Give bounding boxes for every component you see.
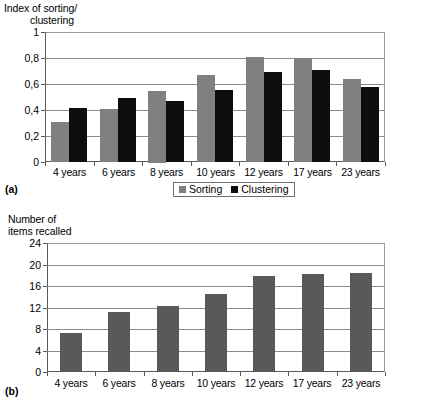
y-tick-label: 16: [3, 280, 41, 292]
bar: [215, 90, 233, 162]
x-tick-label: 17 years: [288, 166, 337, 178]
x-tick-label: 4 years: [45, 166, 94, 178]
x-tick-label: 17 years: [288, 377, 336, 389]
x-tick-mark: [144, 372, 145, 376]
x-tick-mark: [192, 372, 193, 376]
x-tick-label: 8 years: [142, 166, 191, 178]
bar: [69, 108, 87, 162]
bar: [100, 109, 118, 162]
x-tick-label: 6 years: [94, 166, 143, 178]
y-tick-mark: [43, 351, 47, 352]
bar: [312, 70, 330, 162]
bar: [51, 122, 69, 162]
legend-entry-clustering: Clustering: [231, 183, 288, 195]
bar: [148, 91, 166, 163]
x-tick-label: 23 years: [336, 166, 385, 178]
panel-caption-a: (a): [5, 183, 18, 195]
x-tick-mark: [47, 372, 48, 376]
x-tick-label: 23 years: [337, 377, 385, 389]
x-tick-label: 10 years: [191, 166, 240, 178]
bar: [302, 274, 324, 372]
y-tick-label: 12: [3, 302, 41, 314]
x-tick-label: 12 years: [239, 166, 288, 178]
bar: [361, 87, 379, 162]
bar: [264, 72, 282, 162]
chart-items-recalled: Number of items recalled 04812162024 4 y…: [0, 205, 421, 402]
legend-label-clustering: Clustering: [241, 183, 288, 195]
bar: [118, 98, 136, 162]
sorting-swatch-icon: [179, 186, 186, 193]
y-tick-label: 0,6: [1, 78, 39, 90]
y-tick-mark: [43, 308, 47, 309]
chart-a-y-axis-title-line1: Index of sorting/: [4, 2, 77, 14]
bar: [246, 57, 264, 162]
y-tick-mark: [43, 286, 47, 287]
y-tick-label: 24: [3, 237, 41, 249]
gridline: [47, 286, 385, 287]
bar: [294, 58, 312, 162]
y-tick-mark: [41, 84, 45, 85]
y-tick-label: 0,4: [1, 104, 39, 116]
gridline: [47, 265, 385, 266]
y-tick-mark: [43, 243, 47, 244]
y-tick-label: 20: [3, 259, 41, 271]
x-tick-mark: [337, 372, 338, 376]
bar: [60, 333, 82, 372]
y-tick-mark: [43, 329, 47, 330]
bar: [343, 79, 361, 162]
chart-a-legend: Sorting Clustering: [173, 182, 295, 197]
x-tick-mark: [288, 372, 289, 376]
legend-label-sorting: Sorting: [189, 183, 222, 195]
y-tick-label: 0,8: [1, 52, 39, 64]
figure-container: Index of sorting/ clustering 00,20,40,60…: [0, 0, 421, 402]
y-tick-label: 0: [1, 156, 39, 168]
legend-entry-sorting: Sorting: [179, 183, 222, 195]
chart-b-y-axis-title-line1: Number of: [8, 213, 56, 225]
y-tick-label: 8: [3, 323, 41, 335]
x-tick-label: 4 years: [47, 377, 95, 389]
clustering-swatch-icon: [231, 186, 238, 193]
y-tick-mark: [41, 110, 45, 111]
y-tick-mark: [41, 136, 45, 137]
chart-a-y-axis-title-line2: clustering: [30, 14, 74, 26]
gridline: [45, 84, 385, 85]
y-tick-label: 1: [1, 26, 39, 38]
bar: [108, 312, 130, 372]
bar: [205, 294, 227, 372]
gridline: [45, 58, 385, 59]
chart-b-y-axis-title-line2: items recalled: [8, 225, 71, 237]
x-tick-mark: [95, 372, 96, 376]
bar: [166, 101, 184, 162]
x-tick-mark: [385, 162, 386, 166]
y-tick-mark: [41, 58, 45, 59]
bar: [253, 276, 275, 372]
panel-caption-b: (b): [5, 385, 18, 397]
bar: [350, 273, 372, 372]
x-tick-label: 10 years: [192, 377, 240, 389]
x-tick-mark: [240, 372, 241, 376]
x-tick-mark: [385, 372, 386, 376]
y-tick-label: 4: [3, 345, 41, 357]
bar: [197, 75, 215, 162]
chart-sorting-clustering-index: Index of sorting/ clustering 00,20,40,60…: [0, 0, 421, 200]
y-tick-label: 0,2: [1, 130, 39, 142]
y-tick-mark: [41, 32, 45, 33]
x-tick-label: 6 years: [95, 377, 143, 389]
x-tick-label: 12 years: [240, 377, 288, 389]
bar: [157, 306, 179, 372]
x-tick-label: 8 years: [144, 377, 192, 389]
y-tick-label: 0: [3, 366, 41, 378]
y-tick-mark: [43, 265, 47, 266]
